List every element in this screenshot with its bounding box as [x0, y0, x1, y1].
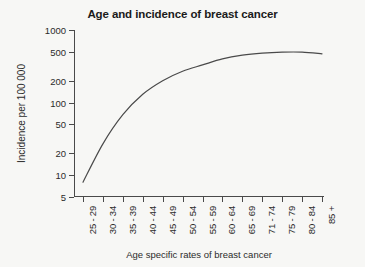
- x-tick-mark: [83, 197, 84, 202]
- y-tick-label: 10: [55, 170, 66, 181]
- incidence-curve-path: [83, 52, 322, 182]
- x-tick-mark: [143, 197, 144, 202]
- x-tick-label: 60 - 64: [226, 206, 237, 234]
- chart-figure: Age and incidence of breast cancer Incid…: [0, 0, 365, 267]
- x-tick-label: 80 - 84: [306, 206, 317, 234]
- x-tick-label: 35 - 39: [127, 206, 138, 234]
- x-tick-mark: [183, 197, 184, 202]
- x-tick-mark: [103, 197, 104, 202]
- y-tick-label: 5: [61, 192, 66, 203]
- y-tick-label: 500: [50, 46, 66, 57]
- x-tick-mark: [242, 197, 243, 202]
- x-tick-mark: [262, 197, 263, 202]
- x-axis-title: Age specific rates of breast cancer: [74, 249, 324, 260]
- x-tick-mark: [163, 197, 164, 202]
- x-tick-label: 71 - 74: [266, 206, 277, 234]
- x-tick-mark: [282, 197, 283, 202]
- x-tick-label: 55 - 59: [207, 206, 218, 234]
- plot-area: 10005002001005020105 25 - 2930 - 3435 - …: [74, 30, 324, 197]
- x-tick-mark: [222, 197, 223, 202]
- y-tick-label: 200: [50, 75, 66, 86]
- y-tick-label: 1000: [45, 25, 66, 36]
- y-tick-label: 100: [50, 97, 66, 108]
- x-tick-label: 65 - 69: [246, 206, 257, 234]
- x-tick-mark: [123, 197, 124, 202]
- incidence-curve: [74, 30, 324, 197]
- x-tick-label: 45 - 49: [167, 206, 178, 234]
- y-tick-label: 50: [55, 119, 66, 130]
- x-tick-label: 30 - 34: [107, 206, 118, 234]
- x-tick-label: 75 - 79: [286, 206, 297, 234]
- x-tick-mark: [203, 197, 204, 202]
- x-tick-label: 85 +: [326, 206, 337, 224]
- x-tick-label: 25 - 29: [87, 206, 98, 234]
- y-axis-title: Incidence per 100 000: [14, 30, 28, 197]
- x-tick-mark: [302, 197, 303, 202]
- x-tick-mark: [322, 197, 323, 202]
- y-axis-title-text: Incidence per 100 000: [16, 64, 27, 163]
- x-tick-label: 50 - 54: [187, 206, 198, 234]
- chart-title: Age and incidence of breast cancer: [0, 8, 365, 20]
- y-tick-label: 20: [55, 148, 66, 159]
- y-tick-mark: [69, 197, 74, 198]
- x-tick-label: 40 - 44: [147, 206, 158, 234]
